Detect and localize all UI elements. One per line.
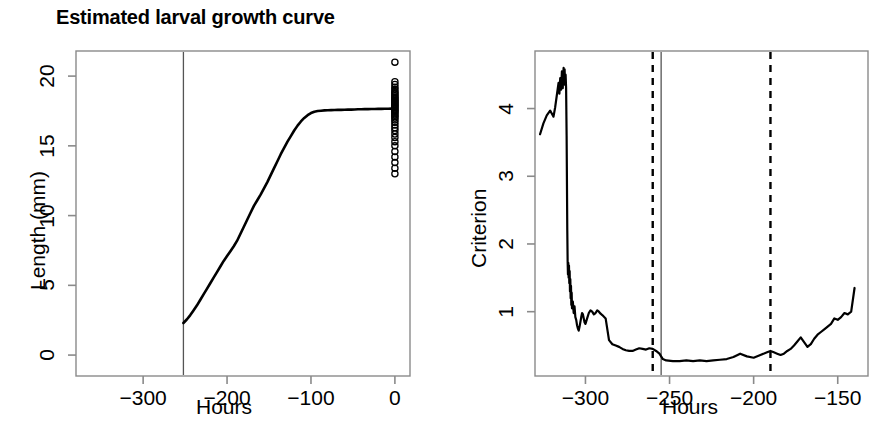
right-plot-frame — [535, 51, 868, 376]
y-tick-label: 2 — [493, 227, 519, 261]
y-tick-label: 0 — [34, 338, 60, 372]
criterion-curve-line — [540, 68, 855, 361]
y-tick-label: 4 — [493, 92, 519, 126]
data-point-circle — [392, 59, 398, 65]
right-y-tick-marks — [527, 109, 535, 312]
left-y-tick-marks — [68, 76, 76, 355]
right-panel-graphics — [527, 51, 868, 384]
y-tick-label: 1 — [493, 295, 519, 329]
left-panel-graphics — [68, 51, 410, 384]
y-tick-label: 15 — [34, 129, 60, 163]
x-tick-label: −250 — [630, 386, 710, 410]
figure-canvas: Estimated larval growth curve Length (mm… — [0, 0, 872, 425]
x-tick-label: −200 — [714, 386, 794, 410]
y-tick-label: 5 — [34, 268, 60, 302]
right-y-axis-label: Criterion — [467, 189, 491, 268]
left-x-tick-marks — [143, 376, 395, 384]
x-tick-label: −300 — [103, 386, 183, 410]
left-plot-frame — [76, 51, 410, 376]
x-tick-label: −300 — [545, 386, 625, 410]
y-tick-label: 20 — [34, 59, 60, 93]
x-tick-label: −100 — [271, 386, 351, 410]
y-tick-label: 10 — [34, 199, 60, 233]
x-tick-label: 0 — [355, 386, 435, 410]
plot-surface — [0, 0, 872, 425]
observed-length-points — [392, 59, 398, 177]
y-tick-label: 3 — [493, 159, 519, 193]
x-tick-label: −150 — [798, 386, 872, 410]
right-reference-lines — [653, 52, 771, 375]
right-x-tick-marks — [585, 376, 837, 384]
x-tick-label: −200 — [187, 386, 267, 410]
growth-curve-line — [183, 109, 394, 323]
